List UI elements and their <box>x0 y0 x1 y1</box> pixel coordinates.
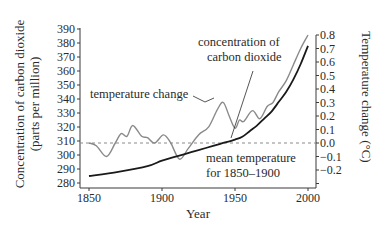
y2-tick-label: 0.4 <box>320 82 335 96</box>
y-tick-label: 380 <box>57 36 75 50</box>
y2-tick-label: 0.2 <box>320 109 335 123</box>
x-axis-title: Year <box>186 206 211 221</box>
y-tick-label: 370 <box>57 50 75 64</box>
y-tick-label: 390 <box>57 22 75 36</box>
x-axis: 1850190019502000 <box>77 188 320 205</box>
y-tick-label: 310 <box>57 134 75 148</box>
x-tick-label: 1850 <box>77 191 101 205</box>
y2-tick-label: 0.0 <box>320 136 335 150</box>
x-tick-label: 1900 <box>150 191 174 205</box>
y2-tick-label: 0.8 <box>320 28 335 42</box>
mean-temp-annotation-line2: for 1850–1900 <box>206 166 280 180</box>
y-tick-label: 280 <box>57 176 75 190</box>
co2-annotation-line1: concentration of <box>198 35 280 49</box>
y2-tick-label: −0.1 <box>320 150 342 164</box>
y2-tick-label: 0.1 <box>320 123 335 137</box>
y-tick-label: 330 <box>57 106 75 120</box>
y-tick-label: 300 <box>57 148 75 162</box>
y2-tick-label: 0.5 <box>320 69 335 83</box>
co2-annotation-leader <box>231 71 253 138</box>
x-tick-label: 2000 <box>296 191 320 205</box>
y2-tick-label: 0.7 <box>320 42 335 56</box>
y2-tick-label: 0.6 <box>320 55 335 69</box>
left-axis: 280290300310320330340350360370380390 <box>57 22 80 190</box>
y2-tick-label: −0.2 <box>320 163 342 177</box>
co2-annotation-line2: carbon dioxide <box>207 50 282 64</box>
y-tick-label: 320 <box>57 120 75 134</box>
y-tick-label: 360 <box>57 64 75 78</box>
y-axis-title-line2: (parts per million) <box>27 57 42 152</box>
temperature-annotation: temperature change <box>90 87 189 101</box>
mean-temp-annotation-line1: mean temperature <box>206 151 296 165</box>
y-tick-label: 350 <box>57 78 75 92</box>
y2-tick-label: 0.3 <box>320 96 335 110</box>
x-tick-label: 1950 <box>223 191 247 205</box>
y-tick-label: 340 <box>57 92 75 106</box>
y2-axis-title: Temperature change (°C) <box>359 31 374 162</box>
temperature-annotation-leader <box>193 96 214 102</box>
y-tick-label: 290 <box>57 162 75 176</box>
co2-temperature-chart: 280290300310320330340350360370380390 0.8… <box>0 0 381 237</box>
y-axis-title-line1: Concentration of carbon dioxide <box>12 19 27 188</box>
right-axis: 0.80.70.60.50.40.30.20.10.0−0.1−0.2 <box>316 28 342 188</box>
